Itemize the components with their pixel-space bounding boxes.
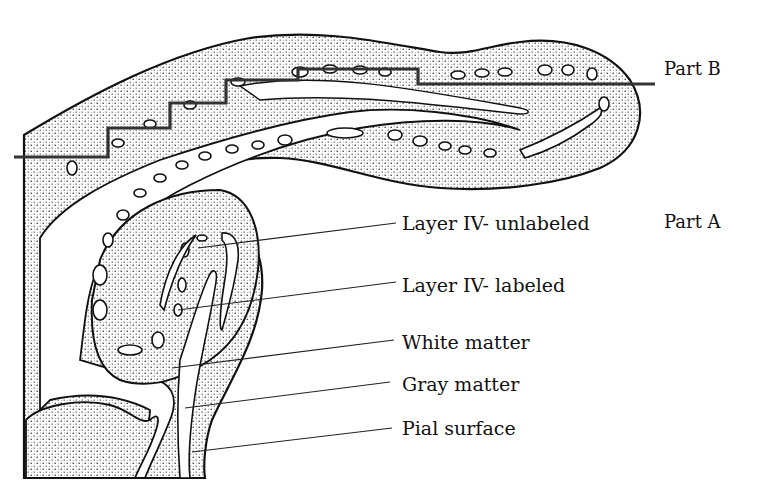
gray-matter-label: Gray matter (402, 375, 519, 394)
layer-iv-labeled-label: Layer IV- labeled (402, 276, 565, 295)
gyrus-diagram: Part B Part A Layer IV- unlabeled Layer … (0, 0, 760, 492)
part-b-label: Part B (664, 60, 721, 78)
part-a-label: Part A (664, 213, 721, 231)
layer-iv-unlabeled-label: Layer IV- unlabeled (402, 214, 590, 233)
pial-surface-label: Pial surface (402, 419, 516, 438)
white-matter-label: White matter (402, 333, 530, 352)
gyrus-drawing (0, 0, 760, 492)
